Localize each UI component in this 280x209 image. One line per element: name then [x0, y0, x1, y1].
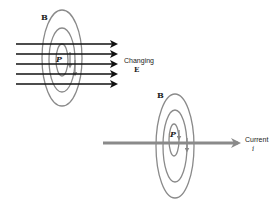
b-field-label: B	[41, 12, 48, 22]
changing-label: Changing	[124, 57, 154, 65]
diagram-canvas: B P Changing E B P Current i	[0, 0, 280, 209]
changing-e-field-diagram: B P Changing E	[16, 10, 154, 106]
point-p-label: P	[55, 54, 63, 64]
magnetic-field-rings-2	[156, 94, 194, 198]
current-label: Current	[245, 136, 268, 143]
e-field-label: E	[134, 65, 139, 74]
current-i-label: i	[252, 145, 254, 153]
electric-field-arrows	[16, 44, 116, 84]
b-field-label-2: B	[157, 90, 164, 100]
current-diagram: B P Current i	[103, 90, 268, 198]
point-p-label-2: P	[169, 129, 177, 139]
